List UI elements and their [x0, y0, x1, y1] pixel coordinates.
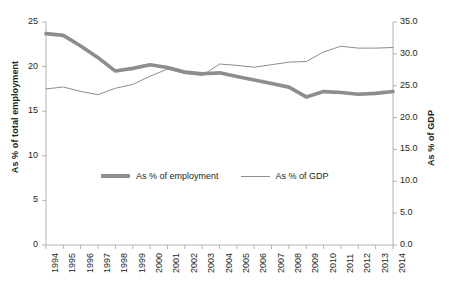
x-axis-tick-label: 2009 [310, 253, 320, 273]
y-axis-left-tick-label: 15 [12, 105, 38, 115]
y-axis-left-tick-label: 0 [12, 239, 38, 249]
legend-swatch-gdp-icon [241, 176, 270, 177]
y-axis-left-tick-label: 10 [12, 150, 38, 160]
x-axis-tick-label: 2008 [293, 253, 303, 273]
series-line-gdp [46, 46, 393, 94]
legend-item-gdp: As % of GDP [241, 171, 329, 181]
x-axis-tick-label: 1999 [137, 253, 147, 273]
x-axis-tick-label: 2010 [328, 253, 338, 273]
y-axis-right-tick-label: 30.0 [400, 48, 432, 58]
x-axis-tick-label: 1996 [85, 253, 95, 273]
chart-container: As % of total employment As % of GDP As … [0, 0, 449, 290]
y-axis-right-tick-label: 25.0 [400, 80, 432, 90]
y-axis-left-tick-label: 25 [12, 16, 38, 26]
x-axis-tick-label: 2012 [362, 253, 372, 273]
y-axis-right-tick-label: 20.0 [400, 112, 432, 122]
x-axis-tick-label: 2005 [241, 253, 251, 273]
legend-swatch-employment-icon [101, 174, 130, 178]
y-axis-right-tick-label: 5.0 [400, 207, 432, 217]
x-axis-tick-label: 2006 [258, 253, 268, 273]
x-axis-tick-label: 2014 [397, 253, 407, 273]
x-axis-tick-label: 2002 [189, 253, 199, 273]
x-axis-tick-label: 2000 [154, 253, 164, 273]
x-axis-tick-label: 2013 [380, 253, 390, 273]
x-axis-tick-label: 2011 [345, 254, 355, 273]
x-axis-tick-label: 1997 [102, 253, 112, 273]
x-axis-tick-label: 2007 [276, 253, 286, 273]
y-axis-right-tick-label: 0.0 [400, 239, 432, 249]
y-axis-left-tick-label: 5 [12, 194, 38, 204]
x-axis-tick-label: 2003 [206, 253, 216, 273]
y-axis-right-tick-label: 10.0 [400, 175, 432, 185]
legend-label-gdp: As % of GDP [276, 171, 329, 181]
y-axis-left-tick-label: 20 [12, 61, 38, 71]
chart-legend: As % of employment As % of GDP [101, 171, 329, 181]
y-axis-right-tick-label: 35.0 [400, 16, 432, 26]
series-line-employment [46, 34, 393, 97]
legend-item-employment: As % of employment [101, 171, 219, 181]
y-axis-right-tick-label: 15.0 [400, 143, 432, 153]
x-axis-tick-label: 1995 [67, 253, 77, 273]
x-axis-tick-label: 1994 [50, 253, 60, 273]
x-axis-tick-label: 2004 [224, 253, 234, 273]
x-axis-tick-label: 1998 [119, 253, 129, 273]
x-axis-tick-label: 2001 [171, 253, 181, 273]
plot-area [0, 0, 449, 290]
legend-label-employment: As % of employment [136, 171, 219, 181]
